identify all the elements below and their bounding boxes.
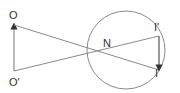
label-object-bottom: O'	[9, 77, 20, 88]
label-image-top: I'	[154, 22, 159, 33]
diagram-canvas	[0, 0, 180, 93]
label-object-top: O	[9, 10, 18, 21]
label-nodal-point: N	[103, 38, 111, 49]
ray-top	[14, 25, 159, 70]
ray-bottom	[14, 36, 159, 71]
label-image-bottom: I	[155, 68, 158, 79]
